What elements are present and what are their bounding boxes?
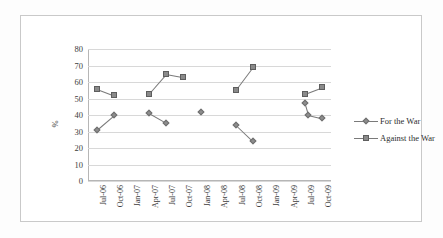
legend-marker-square-icon — [354, 133, 378, 143]
y-axis-title: % — [50, 120, 60, 127]
data-point-square — [233, 87, 239, 93]
legend-marker-diamond-icon — [354, 116, 378, 126]
y-tick-label: 80 — [75, 45, 84, 54]
x-tick-label: Apr-07 — [152, 185, 160, 208]
data-point-square — [180, 74, 186, 80]
chart-screenshot: % 01020304050607080 Jul-06Oct-06Jan-07Ap… — [0, 0, 443, 238]
x-tick-label: Jul-09 — [308, 185, 316, 205]
x-tick-label: Oct-09 — [325, 185, 333, 207]
gridline — [88, 66, 331, 67]
x-tick-label: Jul-07 — [169, 185, 177, 205]
gridline — [88, 82, 331, 83]
x-tick-label: Apr-08 — [221, 185, 229, 208]
y-tick-label: 0 — [79, 177, 83, 186]
data-point-square — [146, 91, 152, 97]
x-tick-label: Jan-09 — [273, 185, 281, 206]
x-tick-label: Oct-07 — [186, 185, 194, 207]
gridline — [88, 165, 331, 166]
data-point-square — [111, 92, 117, 98]
y-tick-label: 10 — [75, 160, 84, 169]
plot-area: 01020304050607080 Jul-06Oct-06Jan-07Apr-… — [88, 49, 331, 181]
x-tick-label: Apr-09 — [291, 185, 299, 208]
gridline — [88, 49, 331, 50]
data-point-square — [319, 84, 325, 90]
legend-item-for-the-war: For the War — [354, 112, 442, 129]
data-point-square — [250, 64, 256, 70]
legend-label: Against the War — [380, 133, 435, 143]
legend-label: For the War — [380, 116, 420, 126]
gridline — [88, 132, 331, 133]
gridline — [88, 181, 331, 182]
y-tick-label: 20 — [75, 144, 84, 153]
data-point-square — [302, 91, 308, 97]
data-point-square — [163, 71, 169, 77]
x-tick-label: Jul-06 — [100, 185, 108, 205]
gridline — [88, 148, 331, 149]
gridline — [88, 99, 331, 100]
x-tick-label: Jan-07 — [134, 185, 142, 206]
y-tick-label: 30 — [75, 127, 84, 136]
x-tick-label: Oct-08 — [256, 185, 264, 207]
y-tick-label: 70 — [75, 61, 84, 70]
gridline — [88, 115, 331, 116]
x-tick-label: Jul-08 — [239, 185, 247, 205]
data-point-square — [94, 86, 100, 92]
chart-legend: For the War Against the War — [354, 112, 442, 146]
x-tick-label: Jan-08 — [204, 185, 212, 206]
legend-item-against-the-war: Against the War — [354, 129, 442, 146]
y-tick-label: 40 — [75, 111, 84, 120]
chart-frame: % 01020304050607080 Jul-06Oct-06Jan-07Ap… — [20, 15, 422, 222]
y-tick-label: 60 — [75, 78, 84, 87]
y-tick-label: 50 — [75, 94, 84, 103]
x-tick-label: Oct-06 — [117, 185, 125, 207]
